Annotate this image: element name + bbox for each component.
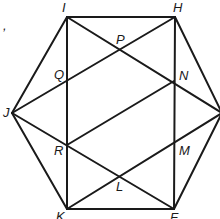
segment-JF: [12, 113, 174, 209]
point-label-R: R: [54, 143, 63, 158]
diagram-labels: IHFKJPQNRML: [2, 0, 190, 219]
stray-comma: ,: [3, 18, 7, 33]
segment-HF: [174, 17, 175, 209]
point-label-I: I: [62, 0, 66, 15]
point-label-H: H: [173, 0, 183, 15]
hexagon-diagram: IHFKJPQNRML ,: [0, 0, 220, 219]
segment-JI: [12, 17, 67, 113]
point-label-M: M: [179, 143, 190, 158]
point-label-L: L: [116, 179, 123, 194]
point-label-P: P: [116, 32, 125, 47]
point-label-Q: Q: [54, 67, 64, 82]
segment-RN: [67, 81, 174, 145]
segment-JH: [12, 17, 175, 113]
point-label-F: F: [170, 210, 179, 219]
point-label-J: J: [2, 105, 10, 120]
point-label-N: N: [179, 68, 189, 83]
point-label-K: K: [56, 209, 66, 219]
segment-KJ: [12, 113, 67, 209]
